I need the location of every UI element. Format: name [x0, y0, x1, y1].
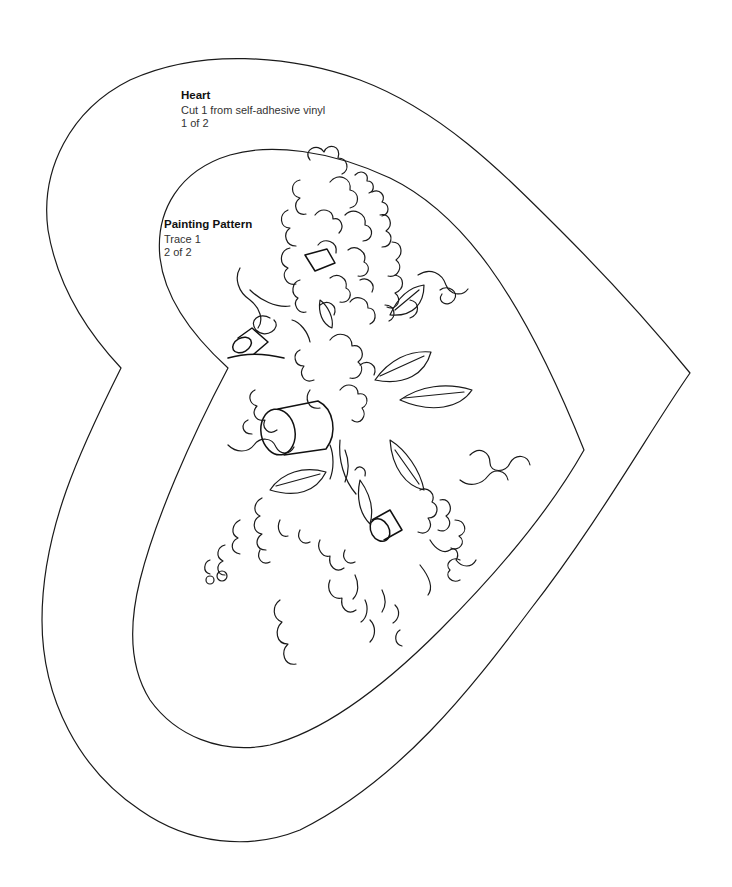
- pattern-sheet: Heart Cut 1 from self-adhesive vinyl 1 o…: [0, 0, 732, 887]
- pattern-drawing: [0, 0, 732, 887]
- painting-pattern-label-page-count: 2 of 2: [164, 246, 252, 259]
- upper-lilac-cluster: [281, 146, 417, 324]
- heart-label: Heart Cut 1 from self-adhesive vinyl 1 o…: [181, 89, 325, 130]
- heart-label-instruction: Cut 1 from self-adhesive vinyl: [181, 104, 325, 117]
- painting-pattern-label: Painting Pattern Trace 1 2 of 2: [164, 218, 252, 259]
- floret-cluster: [243, 334, 375, 482]
- outer-heart-outline: [42, 59, 690, 842]
- painting-pattern-label-title: Painting Pattern: [164, 218, 252, 231]
- heart-label-page-count: 1 of 2: [181, 117, 325, 130]
- lower-left-cluster: [205, 498, 310, 584]
- painting-pattern-label-instruction: Trace 1: [164, 233, 252, 246]
- tendrils: [228, 268, 530, 664]
- heart-label-title: Heart: [181, 89, 325, 102]
